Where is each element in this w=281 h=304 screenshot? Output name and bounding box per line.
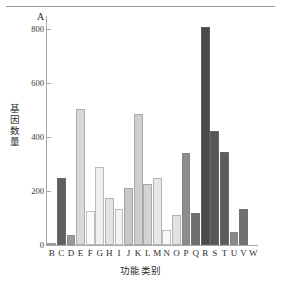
bar-S (210, 131, 219, 246)
y-axis-tick-label: 400 (18, 133, 44, 141)
bar-M (153, 178, 162, 245)
x-axis-label-W: W (248, 247, 258, 259)
x-axis-label-L: L (143, 247, 153, 259)
y-axis-tick-label: 600 (18, 79, 44, 87)
y-axis-tick-label-wrap: 0 (14, 241, 46, 249)
bar-Q (191, 213, 200, 245)
y-axis-tick-label-wrap: 600 (14, 79, 46, 87)
y-axis-tick-label-wrap: 800 (14, 25, 46, 33)
x-axis-label-J: J (124, 247, 134, 259)
y-axis-tick-label: 800 (18, 25, 44, 33)
x-axis-tick-labels: BCDEFGHIJKLMNOPQRSTUVW (47, 247, 258, 261)
y-axis-tick-label: 0 (18, 241, 44, 249)
figure-bottom-margin (0, 292, 281, 304)
x-axis-line (46, 245, 258, 246)
bar-G (95, 167, 104, 245)
x-axis-label-I: I (114, 247, 124, 259)
y-axis-tick-label-wrap: 200 (14, 187, 46, 195)
bars-container (47, 16, 258, 245)
bar-E (76, 109, 85, 245)
x-axis-label-E: E (76, 247, 86, 259)
bar-C (57, 178, 66, 245)
panel-label: A (37, 11, 45, 22)
x-axis-label-T: T (220, 247, 230, 259)
bar-B (47, 243, 56, 245)
x-axis-label-M: M (153, 247, 163, 259)
x-axis-label-G: G (95, 247, 105, 259)
x-axis-label-B: B (47, 247, 57, 259)
x-axis-label-O: O (172, 247, 182, 259)
bar-R (201, 27, 210, 245)
bar-V (239, 209, 248, 245)
bar-D (67, 235, 76, 245)
x-axis-label-N: N (162, 247, 172, 259)
y-axis-title: 基因数量 (7, 104, 21, 148)
bar-U (230, 232, 239, 245)
x-axis-label-U: U (229, 247, 239, 259)
top-divider (6, 6, 275, 7)
figure-panel: A 基因数量 0200400600800 BCDEFGHIJKLMNOPQRST… (0, 0, 281, 304)
bar-P (182, 153, 191, 245)
bar-I (115, 209, 124, 245)
x-axis-label-V: V (239, 247, 249, 259)
y-axis-tick-label: 200 (18, 187, 44, 195)
bar-J (124, 188, 133, 245)
bar-K (134, 114, 143, 245)
bar-O (172, 215, 181, 245)
x-axis-label-K: K (133, 247, 143, 259)
bar-T (220, 152, 229, 245)
x-axis-label-C: C (57, 247, 67, 259)
x-axis-label-S: S (210, 247, 220, 259)
x-axis-label-F: F (85, 247, 95, 259)
bar-N (162, 230, 171, 245)
x-axis-label-P: P (181, 247, 191, 259)
x-axis-label-H: H (105, 247, 115, 259)
bar-H (105, 198, 114, 245)
y-axis-tick-label-wrap: 400 (14, 133, 46, 141)
x-axis-title: 功能类别 (0, 263, 281, 277)
x-axis-label-D: D (66, 247, 76, 259)
bar-L (143, 184, 152, 245)
x-axis-label-R: R (200, 247, 210, 259)
bar-F (86, 211, 95, 245)
x-axis-label-Q: Q (191, 247, 201, 259)
